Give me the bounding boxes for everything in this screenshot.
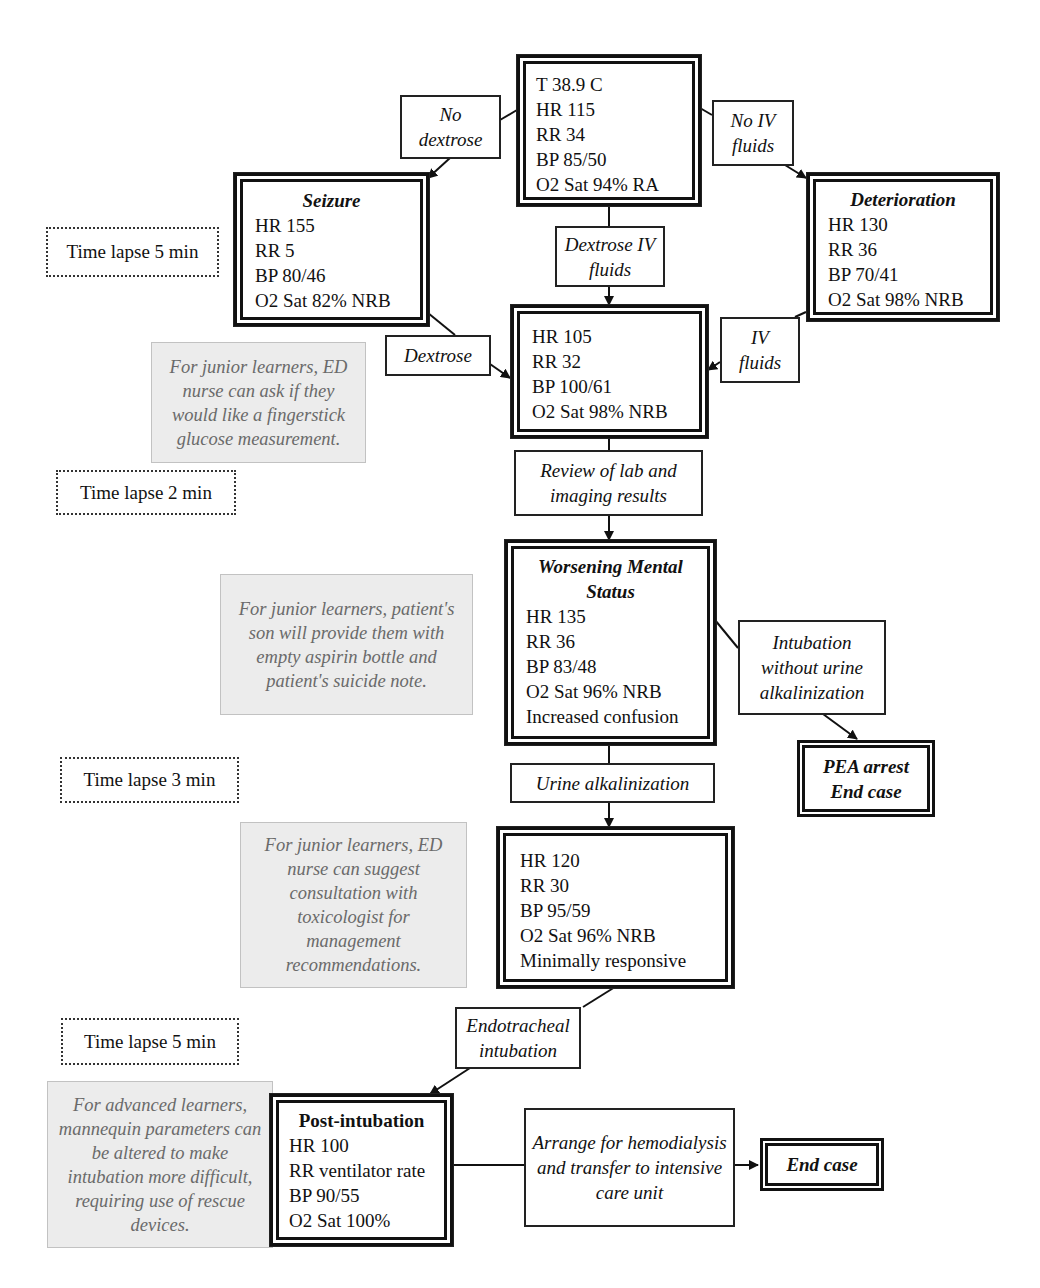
time-lapse-5min-2: Time lapse 5 min: [61, 1018, 239, 1065]
end-state-pea-arrest: PEA arrest End case: [797, 740, 935, 817]
action-review-results: Review of lab and imaging results: [514, 450, 703, 516]
vital-o2: O2 Sat 94% RA: [536, 172, 682, 197]
worsening-title-line2: Status: [526, 579, 695, 604]
seizure-title: Seizure: [255, 188, 408, 213]
note-aspirin-bottle: For junior learners, patient's son will …: [220, 574, 473, 715]
post-intubation-title: Post-intubation: [289, 1108, 434, 1133]
worsening-title-line1: Worsening Mental: [526, 554, 695, 579]
vital-rr: RR 34: [536, 122, 682, 147]
seizure-state-box: Seizure HR 155 RR 5 BP 80/46 O2 Sat 82% …: [234, 173, 429, 326]
worsening-mental-status-box: Worsening Mental Status HR 135 RR 36 BP …: [505, 540, 716, 745]
alkalinized-state-box: HR 120 RR 30 BP 95/59 O2 Sat 96% NRB Min…: [497, 827, 734, 988]
action-urine-alkalinization: Urine alkalinization: [510, 763, 715, 803]
initial-state-box: T 38.9 C HR 115 RR 34 BP 85/50 O2 Sat 94…: [517, 55, 701, 206]
time-lapse-2min: Time lapse 2 min: [56, 470, 236, 515]
note-fingerstick-glucose: For junior learners, ED nurse can ask if…: [151, 342, 366, 463]
action-dextrose: Dextrose: [385, 335, 491, 376]
vital-hr: HR 115: [536, 97, 682, 122]
time-lapse-3min: Time lapse 3 min: [60, 757, 239, 803]
action-dextrose-iv-fluids: Dextrose IV fluids: [555, 226, 665, 287]
deterioration-state-box: Deterioration HR 130 RR 36 BP 70/41 O2 S…: [807, 173, 999, 321]
action-arrange-hemodialysis: Arrange for hemodialysis and transfer to…: [524, 1108, 735, 1227]
vital-temperature: T 38.9 C: [536, 72, 682, 97]
action-iv-fluids: IV fluids: [720, 317, 800, 383]
improved-state-box: HR 105 RR 32 BP 100/61 O2 Sat 98% NRB: [511, 305, 708, 438]
action-no-iv-fluids: No IV fluids: [712, 100, 794, 166]
end-state-end-case: End case: [760, 1138, 884, 1191]
vital-bp: BP 85/50: [536, 147, 682, 172]
note-difficult-intubation: For advanced learners, mannequin paramet…: [47, 1081, 273, 1248]
note-toxicologist-consult: For junior learners, ED nurse can sugges…: [240, 822, 467, 988]
action-intubation-without-alkalinization: Intubation without urine alkalinization: [738, 620, 886, 715]
action-no-dextrose: No dextrose: [400, 95, 501, 159]
time-lapse-5min: Time lapse 5 min: [46, 227, 219, 277]
action-endotracheal-intubation: Endotracheal intubation: [455, 1007, 581, 1069]
post-intubation-state-box: Post-intubation HR 100 RR ventilator rat…: [270, 1094, 453, 1246]
deterioration-title: Deterioration: [828, 187, 978, 212]
